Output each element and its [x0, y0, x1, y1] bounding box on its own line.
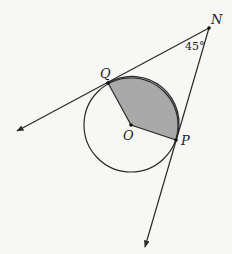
label-n: N — [210, 12, 223, 27]
tangent-ray-np — [145, 28, 209, 247]
tangent-ray-nq — [17, 28, 209, 131]
angle-label: 45° — [185, 40, 205, 53]
point-o — [129, 123, 133, 127]
label-o: O — [123, 128, 134, 143]
geometry-canvas: N Q P O 45° — [0, 0, 232, 254]
point-q — [106, 81, 110, 85]
label-q: Q — [100, 66, 111, 81]
shaded-sector — [108, 76, 179, 140]
diagram: N Q P O 45° — [0, 0, 232, 254]
label-p: P — [180, 133, 190, 148]
point-p — [174, 138, 178, 142]
